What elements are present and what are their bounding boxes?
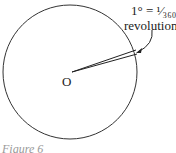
annotation-line-1: 1° = ¹⁄₃₆₀ <box>131 4 176 18</box>
center-label: O <box>62 75 71 89</box>
annotation-line-2: revolution <box>124 19 176 33</box>
arrowhead-icon <box>136 48 142 53</box>
circle <box>3 5 137 139</box>
radius-line-1 <box>72 50 136 72</box>
pointer-arrow <box>138 30 152 52</box>
figure-caption: Figure 6 <box>2 142 43 153</box>
radius-line-2 <box>72 54 137 72</box>
